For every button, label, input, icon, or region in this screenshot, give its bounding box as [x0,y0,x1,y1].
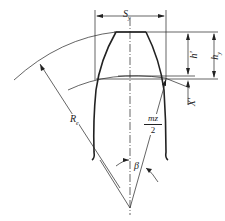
label-x-prime: X' [187,98,197,106]
pitch-circle-arc [68,76,190,90]
label-sy: Sy [123,9,131,21]
label-re: Re [70,114,79,126]
tooth-right-flank [146,32,168,160]
label-beta: β [134,161,139,171]
tooth-left-flank [92,32,116,160]
diagram-drawing [0,0,225,221]
addendum-circle-arc [14,32,116,80]
label-h-prime: h' [189,51,199,58]
gear-tooth-diagram: Sy h' hy X' Re mz 2 β [0,0,225,221]
label-mz-over-2: mz 2 [144,114,162,135]
label-hy: hy [210,52,222,60]
